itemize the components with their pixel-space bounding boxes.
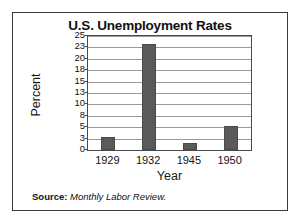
gridline [88,59,251,60]
y-tick-label: 23 [59,42,85,52]
bar [101,137,115,150]
chart-figure-frame: U.S. Unemployment Rates Percent 03581013… [12,12,288,211]
y-tick-label: 0 [59,144,85,154]
source-note: Source: Monthly Labor Review. [32,191,166,202]
x-tick-label: 1932 [136,154,160,167]
y-tick-label: 13 [59,87,85,97]
y-tick-label: 3 [59,133,85,143]
gridline [88,36,251,37]
gridline [88,70,251,71]
y-axis-tick-labels: 035810131518202325 [59,35,85,151]
gridline [88,93,251,94]
y-axis-title: Percent [29,55,43,135]
y-tick-label: 18 [59,64,85,74]
x-axis-tick-labels: 1929193219451950 [87,154,252,168]
gridline [88,82,251,83]
y-tick-mark [85,149,88,150]
y-tick-mark [85,46,88,47]
x-tick-label: 1950 [217,154,241,167]
y-tick-mark [85,35,88,36]
gridline [88,104,251,105]
y-tick-mark [85,81,88,82]
y-tick-label: 5 [59,121,85,131]
chart-title: U.S. Unemployment Rates [13,18,287,33]
bar [142,44,156,150]
gridline [88,47,251,48]
x-tick-label: 1929 [95,154,119,167]
y-tick-label: 25 [59,30,85,40]
gridline [88,116,251,117]
source-label: Source: [32,191,67,202]
x-axis-title: Year [87,169,252,183]
y-tick-mark [85,58,88,59]
bar [224,126,238,150]
y-tick-mark [85,138,88,139]
bar [183,143,197,150]
x-tick-label: 1945 [177,154,201,167]
source-value: Monthly Labor Review. [70,191,166,202]
y-tick-label: 15 [59,76,85,86]
y-tick-mark [85,115,88,116]
y-tick-mark [85,92,88,93]
y-tick-label: 8 [59,110,85,120]
plot-area [87,35,252,151]
y-tick-mark [85,103,88,104]
y-tick-mark [85,126,88,127]
y-tick-mark [85,69,88,70]
y-tick-label: 20 [59,53,85,63]
y-tick-label: 10 [59,99,85,109]
